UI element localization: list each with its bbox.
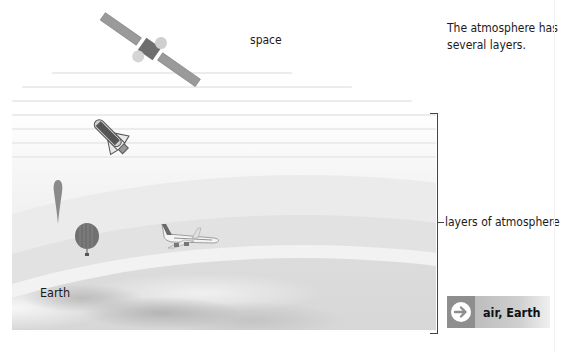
upper-atmosphere-streaks xyxy=(12,60,436,170)
earth-label: Earth xyxy=(40,285,70,301)
space-label: space xyxy=(250,32,282,48)
atmosphere-illustration xyxy=(12,0,436,330)
layers-of-atmosphere-label: layers of atmosphere xyxy=(445,214,560,230)
space-shuttle-icon xyxy=(88,112,136,160)
hot-air-balloon-icon xyxy=(74,222,100,256)
weather-balloon-icon xyxy=(52,180,64,224)
layers-bracket-tick xyxy=(437,222,444,223)
air-earth-link-button[interactable]: air, Earth xyxy=(447,296,550,328)
layers-bracket xyxy=(430,113,438,334)
page-edge-divider xyxy=(554,0,555,353)
link-button-label: air, Earth xyxy=(483,305,541,320)
airplane-icon xyxy=(158,222,222,250)
arrow-right-circle-icon xyxy=(447,296,475,328)
satellite-icon xyxy=(100,14,200,86)
intro-text: The atmosphere has several layers. xyxy=(447,20,559,54)
